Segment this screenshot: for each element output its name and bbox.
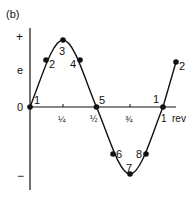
- x-tick-label: 1: [161, 113, 167, 124]
- y-minus-label: −: [17, 169, 24, 183]
- point-label: 2: [49, 58, 55, 70]
- point-1-repeat: [160, 104, 166, 110]
- point-2-repeat: [173, 59, 179, 65]
- y-plus-label: +: [16, 30, 23, 44]
- point-4: [77, 57, 83, 63]
- x-tick-label: ¼: [58, 114, 66, 124]
- point-label: 1: [34, 94, 40, 106]
- point-6: [110, 151, 116, 157]
- point-8: [143, 151, 149, 157]
- x-unit-label: rev: [172, 113, 186, 124]
- sine-wave-diagram: (b) + e 0 − ¼ ½ ¾ 1 rev 1 2 3 4 5 6 7 8 …: [0, 0, 194, 214]
- point-1: [27, 104, 33, 110]
- point-label: 3: [59, 45, 65, 57]
- x-tick-label: ¾: [125, 114, 133, 124]
- point-label: 1: [153, 93, 159, 105]
- point-label: 6: [116, 148, 122, 160]
- point-label: 8: [136, 148, 142, 160]
- point-label: 5: [99, 94, 105, 106]
- panel-label: (b): [6, 8, 19, 20]
- origin-label: 0: [17, 101, 23, 113]
- point-label: 2: [179, 60, 185, 72]
- point-label: 4: [70, 58, 76, 70]
- point-3: [60, 37, 66, 43]
- point-label: 7: [126, 162, 132, 174]
- x-tick-label: ½: [90, 114, 98, 124]
- y-axis-label: e: [17, 64, 23, 76]
- point-2: [43, 57, 49, 63]
